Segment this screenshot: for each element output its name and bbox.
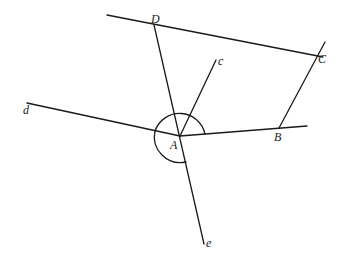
ray-Ac [180,60,216,136]
line-AB [180,126,307,136]
point-label-D: D [151,13,160,25]
arc-dAB-upper [155,113,205,134]
diagram-lines [0,0,341,265]
ray-Ad [27,103,180,136]
point-label-A: A [170,139,177,151]
point-label-C: C [318,53,326,65]
point-label-B: B [274,131,281,143]
line-DC [107,15,323,57]
ray-label-e: e [206,237,211,249]
ray-label-d: d [23,104,29,116]
geometry-diagram: D C c d A B e [0,0,341,265]
ray-label-c: c [218,55,223,67]
